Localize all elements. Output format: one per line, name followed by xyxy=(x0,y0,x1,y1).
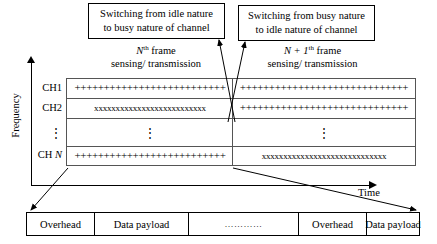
chn-frame-n1-cell: xxxxxxxxxxxxxxxxxxxxxxxxxxxxx xyxy=(233,147,415,166)
ch1-frame-n1-cell: +++++++++++++++++++++++++++++ xyxy=(233,79,415,98)
frame-caption-n: Nth frame sensing/ transmission xyxy=(86,44,226,70)
ellipsis-right: ⋮ xyxy=(318,127,330,139)
frame-n-suffix: frame xyxy=(149,45,176,56)
channel-label-ellipsis: ⋮ xyxy=(24,126,62,141)
diagram-canvas: Switching from idle nature to busy natur… xyxy=(0,0,437,244)
frame-cell-ellipsis: ………… xyxy=(189,213,299,235)
x-axis-line xyxy=(31,185,371,186)
table-row: xxxxxxxxxxxxxxxxxxxxxxxxxx +++++++++++++… xyxy=(67,99,415,119)
table-row: ⋮ ⋮ xyxy=(67,119,415,147)
callout-left-line2: to busy nature of channel xyxy=(93,21,220,35)
ellipsis-frame-n-cell: ⋮ xyxy=(67,119,233,146)
ch1-frame-n-cell: ++++++++++++++++++++++++++ xyxy=(67,79,233,98)
callout-right-line2: to idle nature of channel xyxy=(243,23,370,37)
chn-frame-n1-marks: xxxxxxxxxxxxxxxxxxxxxxxxxxxxx xyxy=(262,153,387,161)
channel-label-ch1: CH1 xyxy=(24,82,62,93)
callout-box-idle-to-busy: Switching from idle nature to busy natur… xyxy=(88,3,225,39)
y-axis-line xyxy=(31,62,32,186)
frame-caption-n-plus-1: N + 1th frame sensing/ transmission xyxy=(240,44,385,70)
channel-label-ch2: CH2 xyxy=(24,102,62,113)
frame-n1-symbol: N + 1 xyxy=(284,45,309,56)
leader-line-frame-end xyxy=(233,168,416,210)
table-row: ++++++++++++++++++++++++++ xxxxxxxxxxxxx… xyxy=(67,147,415,166)
frame-n-sublabel: sensing/ transmission xyxy=(86,57,226,70)
chn-frame-n-cell: ++++++++++++++++++++++++++ xyxy=(67,147,233,166)
frame-cell-overhead-1: Overhead xyxy=(27,213,95,235)
frame-n1-suffix: frame xyxy=(314,45,341,56)
x-axis-label: Time xyxy=(358,187,380,198)
chn-frame-n-marks: ++++++++++++++++++++++++++ xyxy=(75,152,226,161)
y-axis-label: Frequency xyxy=(10,86,21,146)
frame-cell-data-payload-1: Data payload xyxy=(95,213,189,235)
frame-n1-sublabel: sensing/ transmission xyxy=(240,57,385,70)
ch2-frame-n-marks: xxxxxxxxxxxxxxxxxxxxxxxxxx xyxy=(94,105,206,113)
leader-line-frame-start xyxy=(31,168,68,210)
ellipsis-left: ⋮ xyxy=(144,127,156,139)
ch2-frame-n1-marks: +++++++++++++++++++++++++++++ xyxy=(240,104,408,113)
frame-divider-line xyxy=(232,78,233,166)
frame-structure-bar: Overhead Data payload ………… Overhead Data… xyxy=(26,212,420,236)
ch1-frame-n1-marks: +++++++++++++++++++++++++++++ xyxy=(240,84,408,93)
ch2-frame-n1-cell: +++++++++++++++++++++++++++++ xyxy=(233,99,415,118)
callout-right-line1: Switching from busy nature xyxy=(243,9,370,23)
callout-box-busy-to-idle: Switching from busy nature to idle natur… xyxy=(238,5,375,41)
frame-label-n: Nth frame xyxy=(86,44,226,57)
frame-cell-data-payload-2: Data payload xyxy=(367,213,419,235)
frame-label-n-plus-1: N + 1th frame xyxy=(240,44,385,57)
channel-occupancy-grid: ++++++++++++++++++++++++++ +++++++++++++… xyxy=(66,78,416,166)
chn-symbol: N xyxy=(55,149,62,160)
channel-label-chn: CH N xyxy=(20,149,62,160)
ch1-frame-n-marks: ++++++++++++++++++++++++++ xyxy=(75,84,226,93)
callout-left-line1: Switching from idle nature xyxy=(93,7,220,21)
ch2-frame-n-cell: xxxxxxxxxxxxxxxxxxxxxxxxxx xyxy=(67,99,233,118)
frame-cell-overhead-2: Overhead xyxy=(299,213,367,235)
ellipsis-frame-n1-cell: ⋮ xyxy=(233,119,415,146)
table-row: ++++++++++++++++++++++++++ +++++++++++++… xyxy=(67,79,415,99)
